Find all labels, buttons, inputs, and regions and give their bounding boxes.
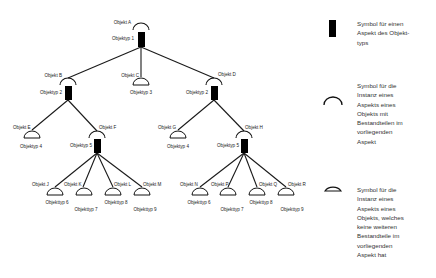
node-type-label: Objekttyp 6	[45, 200, 69, 205]
instance-arc-icon	[133, 23, 149, 30]
leaf-half-disc-icon	[170, 131, 186, 138]
edge-F-L	[97, 153, 113, 187]
node-type-label: Objektyp 2	[186, 90, 208, 95]
node-M: Objekt M Objekttyp 9	[133, 182, 161, 212]
edge-B-E	[32, 100, 68, 130]
node-E: Objekt E Objektyp 4	[13, 125, 42, 149]
node-N: Objekt N Objekttyp 6	[180, 182, 211, 205]
leaf-half-disc-icon	[134, 188, 150, 195]
node-type-label: Objektyp 4	[20, 144, 42, 149]
leaf-half-disc-icon	[105, 188, 121, 195]
node-label: Objekt G	[158, 125, 177, 130]
edge-H-P	[228, 153, 244, 187]
legend-text-aspect: Symbol für einen Aspekt des Objekt- typs	[357, 19, 409, 47]
node-type-label: Objekttyp 8	[249, 200, 273, 205]
node-type-label: Objektyp 2	[40, 90, 62, 95]
node-label: Objekt K	[64, 182, 83, 187]
node-label: Objekt H	[245, 125, 263, 130]
aspect-rectangle-icon	[241, 139, 248, 153]
node-Q: Objekt Q Objekttyp 8	[249, 182, 278, 205]
leaf-half-disc-icon	[249, 188, 265, 195]
node-P: Objekt P Objekttyp 7	[211, 182, 244, 212]
legend-instance-arc-icon	[324, 97, 342, 105]
legend-aspect-rectangle-icon	[329, 20, 336, 37]
node-type-label: Objekttyp 7	[74, 207, 98, 212]
node-label: Objekt R	[288, 182, 307, 187]
node-type-label: Objektyp 4	[167, 144, 189, 149]
node-label: Objekt P	[211, 182, 229, 187]
leaf-half-disc-icon	[76, 188, 92, 195]
instance-arc-icon	[89, 131, 105, 138]
node-type-label: Objekttyp 9	[133, 207, 157, 212]
edges	[32, 47, 286, 187]
node-type-label: Objektyp 5	[70, 143, 92, 148]
node-label: Objekt J	[32, 182, 49, 187]
node-label: Objekt B	[44, 73, 62, 78]
node-label: Objekt D	[218, 72, 237, 77]
leaf-half-disc-icon	[192, 188, 208, 195]
node-R: Objekt R Objekttyp 9	[278, 182, 307, 212]
leaf-half-disc-icon	[47, 188, 63, 195]
node-label: Objekt M	[143, 182, 162, 187]
legend-symbols	[324, 20, 342, 191]
node-H: Objekt H Objektyp 5	[217, 125, 263, 153]
node-type-label: Objektyp 1	[112, 36, 134, 41]
node-label: Objekt Q	[259, 182, 278, 187]
node-type-label: Objekttyp 7	[220, 207, 244, 212]
node-D: Objekt D Objektyp 2	[186, 72, 237, 100]
node-label: Objekt C	[121, 73, 140, 78]
leaf-half-disc-icon	[24, 131, 40, 138]
node-L: Objekt L Objekttyp 8	[104, 182, 131, 205]
node-type-label: Objekttyp 8	[104, 200, 128, 205]
node-type-label: Objektyp 5	[217, 143, 239, 148]
aspect-rectangle-icon	[65, 86, 72, 100]
leaf-half-disc-icon	[220, 188, 236, 195]
aspect-rectangle-icon	[211, 86, 218, 100]
edge-D-G	[178, 100, 214, 130]
node-type-label: Objekttyp 6	[187, 200, 211, 205]
leaf-half-disc-icon	[133, 78, 149, 85]
legend-text-instance-with-parts: Symbol für die Instanz eines Aspekts ein…	[357, 81, 403, 146]
node-label: Objekt A	[114, 20, 132, 25]
node-C: Objekt C Objektyp 3	[121, 73, 152, 95]
node-K: Objekt K Objekttyp 7	[64, 182, 98, 212]
edge-A-D	[141, 47, 214, 78]
node-label: Objekt L	[114, 182, 132, 187]
leaf-half-disc-icon	[278, 188, 294, 195]
instance-arc-icon	[206, 78, 222, 85]
legend-leaf-half-disc-icon	[325, 187, 341, 191]
aspect-rectangle-icon	[138, 32, 145, 47]
instance-arc-icon	[236, 131, 252, 138]
instance-arc-icon	[60, 78, 76, 85]
node-label: Objekt E	[13, 125, 31, 130]
aspect-rectangle-icon	[94, 139, 101, 153]
node-F: Objekt F Objektyp 5	[70, 125, 117, 153]
node-G: Objekt G Objektyp 4	[158, 125, 189, 149]
node-type-label: Objekttyp 9	[280, 207, 304, 212]
node-A: Objekt A Objektyp 1	[112, 20, 149, 47]
edge-D-H	[214, 100, 244, 131]
node-label: Objekt N	[180, 182, 198, 187]
node-label: Objekt F	[99, 125, 117, 130]
legend-text-instance-without-parts: Symbol für die Instanz eines Aspekts ein…	[357, 185, 404, 259]
edge-B-F	[68, 100, 97, 131]
node-type-label: Objektyp 3	[130, 90, 152, 95]
